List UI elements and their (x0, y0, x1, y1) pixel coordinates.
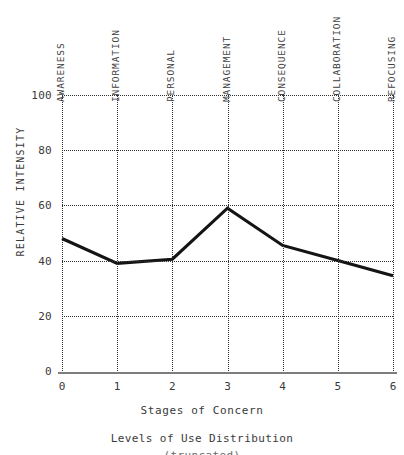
x-tick-label: 6 (381, 381, 404, 392)
x-tick-label: 1 (105, 381, 129, 392)
stage-label-collaboration: COLLABORATION (331, 16, 342, 102)
y-tick-label: 0 (18, 366, 52, 377)
gridline-vertical (62, 95, 63, 371)
y-tick-label: 20 (18, 311, 52, 322)
plot-area (62, 95, 393, 371)
gridline-horizontal (62, 316, 393, 317)
gridline-horizontal (62, 205, 393, 206)
stage-label-management: MANAGEMENT (221, 36, 232, 102)
x-tick-label: 3 (216, 381, 240, 392)
stage-label-personal: PERSONAL (165, 49, 176, 102)
y-axis-ticks: 020406080100 (12, 0, 52, 455)
x-tick-label: 2 (160, 381, 184, 392)
stage-label-consequence: CONSEQUENCE (276, 29, 287, 102)
gridline-vertical (283, 95, 284, 371)
gridline-vertical (228, 95, 229, 371)
gridline-vertical (117, 95, 118, 371)
gridline-vertical (393, 95, 394, 371)
y-tick-label: 40 (18, 256, 52, 267)
gridline-horizontal (62, 261, 393, 262)
x-axis-title: Stages of Concern (0, 404, 404, 417)
y-tick-label: 60 (18, 200, 52, 211)
chart-caption: Levels of Use Distribution (0, 432, 404, 445)
x-axis-baseline (58, 372, 397, 374)
y-tick-label: 80 (18, 145, 52, 156)
chart-figure: RELATIVE INTENSITY 020406080100 Stages o… (0, 0, 404, 455)
stage-label-information: INFORMATION (110, 29, 121, 102)
gridline-vertical (172, 95, 173, 371)
stage-label-awareness: AWARENESS (55, 42, 66, 102)
gridline-vertical (338, 95, 339, 371)
chart-caption-second-line: (truncated) (0, 449, 404, 455)
x-tick-label: 0 (50, 381, 74, 392)
stage-label-refocusing: REFOCUSING (386, 36, 397, 102)
y-tick-label: 100 (18, 90, 52, 101)
gridline-horizontal (62, 150, 393, 151)
x-tick-label: 4 (271, 381, 295, 392)
x-tick-label: 5 (326, 381, 350, 392)
